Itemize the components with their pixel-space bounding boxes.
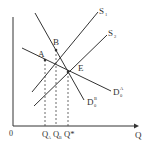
origin-label: 0	[9, 129, 13, 138]
x-axis-arrow-icon	[134, 124, 139, 129]
point-b-marker	[55, 49, 58, 52]
s1-label: S	[99, 6, 104, 16]
point-e-marker	[67, 71, 70, 74]
point-e-label: E	[78, 63, 84, 73]
db-subscript: 0	[94, 103, 97, 108]
point-a-marker	[44, 59, 47, 62]
da-label: D	[113, 87, 120, 97]
point-a-label: A	[38, 49, 45, 59]
x-axis-label: Q	[135, 130, 142, 140]
s2-label: S	[108, 28, 113, 38]
point-b-label: B	[53, 37, 59, 47]
da-subscript: 0	[120, 93, 123, 98]
tick-qa-subscript: A	[48, 135, 51, 140]
tick-qstar-label: Q*	[64, 129, 74, 139]
s1-subscript: 1	[105, 12, 107, 17]
db-label: D	[87, 97, 94, 107]
tick-qb-subscript: B	[59, 135, 62, 140]
da-superscript: A	[120, 86, 124, 91]
supply-demand-diagram: A B E S 1 S 2 D A 0 D B 0 0 Q Q A Q B Q*	[0, 0, 150, 147]
db-superscript: B	[94, 96, 97, 101]
s2-subscript: 2	[114, 34, 116, 39]
